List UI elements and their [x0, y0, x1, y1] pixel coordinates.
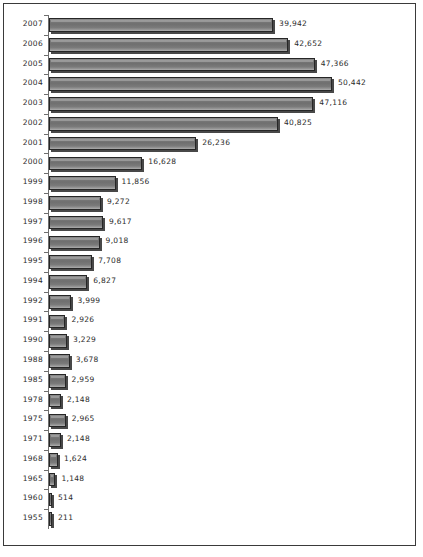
bar-wrapper [49, 374, 66, 388]
category-label: 1965 [12, 474, 43, 484]
category-label: 1997 [12, 217, 43, 227]
bar[interactable] [49, 157, 142, 171]
bar-highlight [51, 79, 330, 81]
bar-value-label: 11,856 [122, 177, 150, 187]
bar[interactable] [49, 414, 66, 428]
bar-value-label: 2,965 [72, 414, 95, 424]
bar[interactable] [49, 255, 92, 269]
bar-highlight [51, 60, 313, 62]
bar[interactable] [49, 176, 116, 190]
bar-row: 19903,229 [12, 331, 409, 351]
bar[interactable] [49, 512, 52, 526]
bar[interactable] [49, 236, 100, 250]
category-label: 1955 [12, 513, 43, 523]
bar[interactable] [49, 117, 278, 131]
axis-tick [44, 410, 48, 411]
bar-row: 200016,628 [12, 153, 409, 173]
axis-tick [44, 153, 48, 154]
bar-value-label: 1,148 [61, 474, 84, 484]
bar-highlight [51, 40, 286, 42]
bar-row: 199911,856 [12, 173, 409, 193]
bar-wrapper [49, 117, 278, 131]
bar[interactable] [49, 97, 313, 111]
bar-wrapper [49, 433, 61, 447]
axis-tick [44, 292, 48, 293]
bar[interactable] [49, 493, 52, 507]
bar-wrapper [49, 414, 66, 428]
category-label: 1971 [12, 434, 43, 444]
bar[interactable] [49, 58, 315, 72]
bar[interactable] [49, 354, 70, 368]
bar-row: 19852,959 [12, 371, 409, 391]
bar[interactable] [49, 334, 67, 348]
axis-tick [44, 114, 48, 115]
bar-wrapper [49, 196, 101, 210]
bar[interactable] [49, 473, 55, 487]
axis-tick [44, 450, 48, 451]
bar-value-label: 7,708 [98, 256, 121, 266]
category-label: 1999 [12, 177, 43, 187]
axis-tick [44, 509, 48, 510]
category-label: 1968 [12, 454, 43, 464]
axis-tick [44, 94, 48, 95]
bar-value-label: 26,236 [202, 138, 230, 148]
category-label: 2002 [12, 118, 43, 128]
bar-row: 19912,926 [12, 311, 409, 331]
axis-tick [44, 430, 48, 431]
bar-wrapper [49, 157, 142, 171]
bar-row: 1955211 [12, 509, 409, 529]
bar-wrapper [49, 512, 52, 526]
category-label: 2005 [12, 59, 43, 69]
bar-highlight [51, 20, 271, 22]
bar[interactable] [49, 38, 288, 52]
axis-tick [44, 470, 48, 471]
bar[interactable] [49, 374, 66, 388]
bar-wrapper [49, 18, 273, 32]
bar-value-label: 2,959 [72, 375, 95, 385]
bar-row: 19883,678 [12, 351, 409, 371]
bar[interactable] [49, 394, 61, 408]
bar[interactable] [49, 315, 65, 329]
bar[interactable] [49, 275, 87, 289]
bar-highlight [51, 317, 63, 319]
bar[interactable] [49, 196, 101, 210]
bar[interactable] [49, 295, 71, 309]
bar-value-label: 2,148 [67, 395, 90, 405]
category-label: 1960 [12, 493, 43, 503]
bar-row: 19989,272 [12, 193, 409, 213]
bar-row: 200126,236 [12, 134, 409, 154]
axis-tick [44, 74, 48, 75]
bar-highlight [51, 336, 65, 338]
bar-value-label: 47,116 [319, 98, 347, 108]
bar-value-label: 9,617 [109, 217, 132, 227]
bar-wrapper [49, 58, 315, 72]
bar-wrapper [49, 77, 332, 91]
category-label: 2004 [12, 78, 43, 88]
bar[interactable] [49, 453, 58, 467]
bar-value-label: 50,442 [338, 78, 366, 88]
bar-row: 19957,708 [12, 252, 409, 272]
bar-wrapper [49, 38, 288, 52]
bar-row: 1960514 [12, 489, 409, 509]
bar[interactable] [49, 18, 273, 32]
bar-wrapper [49, 137, 196, 151]
bar-row: 19752,965 [12, 410, 409, 430]
bar-wrapper [49, 493, 52, 507]
bar-value-label: 3,678 [76, 355, 99, 365]
bar-wrapper [49, 453, 58, 467]
bar-row: 19651,148 [12, 470, 409, 490]
bar-value-label: 40,825 [284, 118, 312, 128]
bar-row: 200739,942 [12, 15, 409, 35]
category-label: 1991 [12, 315, 43, 325]
bar[interactable] [49, 77, 332, 91]
bar-row: 200450,442 [12, 74, 409, 94]
category-label: 2006 [12, 39, 43, 49]
category-label: 1998 [12, 197, 43, 207]
bar[interactable] [49, 216, 103, 230]
bar-wrapper [49, 315, 65, 329]
bar[interactable] [49, 433, 61, 447]
bar-highlight [51, 257, 90, 259]
bar[interactable] [49, 137, 196, 151]
plot-area: 200739,942200642,652200547,366200450,442… [12, 10, 409, 539]
axis-tick [44, 391, 48, 392]
